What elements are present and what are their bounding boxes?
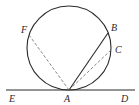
- label-B: B: [111, 22, 117, 33]
- label-A: A: [63, 93, 71, 104]
- label-F: F: [20, 24, 28, 35]
- chord-AF: [29, 35, 69, 90]
- label-C: C: [115, 44, 122, 55]
- chord-AB: [69, 33, 108, 90]
- geometry-diagram: F B C E A D: [0, 0, 139, 105]
- label-D: D: [120, 93, 129, 104]
- label-E: E: [8, 93, 15, 104]
